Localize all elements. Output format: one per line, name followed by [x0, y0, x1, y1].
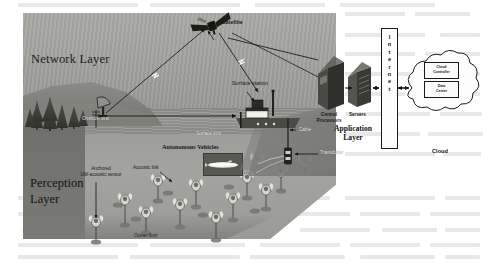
satellite-label: Satellite: [222, 19, 243, 25]
anchored-sensor-label-line2: UW-acoustic sensor: [72, 172, 130, 178]
surface-sink-label: Surface sink: [196, 131, 221, 136]
internet-letter: r: [382, 64, 397, 71]
onshore-sink-label: Onshore sink: [82, 116, 109, 121]
servers-label: Servers: [349, 112, 366, 117]
ocean-floor-label: Ocean floor: [134, 233, 158, 238]
perception-layer-label-line2: Layer: [30, 192, 83, 208]
application-layer-label-line1: Application: [326, 124, 380, 133]
internet-letter: e: [382, 56, 397, 63]
cloud-controller-line2: Controller: [425, 70, 458, 75]
application-layer-label: Application Layer: [326, 124, 380, 143]
internet-letter: t: [382, 49, 397, 56]
central-processors-label: Central Processors: [313, 112, 345, 124]
cloud-label: Cloud: [405, 148, 475, 154]
anchored-sensor-label: Anchored UW-acoustic sensor: [72, 166, 130, 179]
application-layer-label-line2: Layer: [326, 133, 380, 142]
figure-canvas: Network Layer Perception Layer Satellite…: [0, 0, 489, 266]
perception-layer-label: Perception Layer: [30, 176, 83, 207]
internet-label: Internet: [382, 34, 397, 93]
internet-letter: n: [382, 71, 397, 78]
autonomous-vehicles-label: Autonomous Vehicles: [162, 143, 219, 150]
internet-letter: I: [382, 34, 397, 41]
acoustic-link-label: Acoustic link: [133, 165, 159, 170]
data-center-box: Data Center: [424, 81, 459, 98]
surface-station-label: Surface station: [232, 80, 268, 86]
transducer-label: Transducer: [320, 150, 343, 155]
internet-letter: t: [382, 86, 397, 93]
cloud-controller-box: Cloud Controller: [424, 62, 459, 79]
internet-backbone-bar: Internet: [381, 28, 398, 149]
network-layer-label: Network Layer: [31, 52, 110, 67]
internet-letter: n: [382, 41, 397, 48]
autonomous-vehicle-photo: [203, 153, 243, 176]
cable-label: Cable: [299, 127, 311, 132]
internet-letter: e: [382, 78, 397, 85]
data-center-line2: Center: [425, 89, 458, 94]
